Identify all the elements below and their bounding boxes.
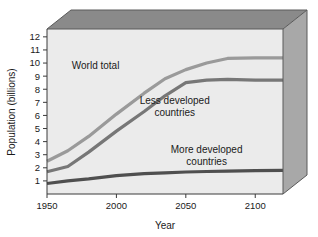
x-axis-title: Year <box>155 220 176 231</box>
y-axis-title: Population (billions) <box>6 68 17 155</box>
y-tick-label-4: 4 <box>35 136 40 147</box>
y-tick-label-9: 9 <box>35 71 40 82</box>
x-axis-ticks: 1950200020502100 <box>36 194 265 211</box>
y-tick-label-11: 11 <box>30 44 40 55</box>
y-tick-label-5: 5 <box>35 123 40 134</box>
y-tick-label-6: 6 <box>35 110 40 121</box>
y-axis-ticks: 123456789101112 <box>29 31 47 186</box>
population-projection-chart: 123456789101112 1950200020502100 Populat… <box>0 0 318 237</box>
x-tick-label-2100: 2100 <box>245 200 266 211</box>
y-tick-label-1: 1 <box>35 175 40 186</box>
y-tick-label-2: 2 <box>35 162 40 173</box>
x-tick-label-2050: 2050 <box>175 200 196 211</box>
y-tick-label-3: 3 <box>35 149 40 160</box>
x-tick-label-2000: 2000 <box>106 200 127 211</box>
chart-canvas: 123456789101112 1950200020502100 Populat… <box>0 0 318 237</box>
chart-box-top-face <box>47 10 307 29</box>
x-tick-label-1950: 1950 <box>36 200 57 211</box>
annotation-world-total: World total <box>72 60 120 71</box>
y-tick-label-8: 8 <box>35 84 40 95</box>
chart-box-right-face <box>283 10 307 194</box>
y-tick-label-7: 7 <box>35 97 40 108</box>
y-tick-label-12: 12 <box>29 31 40 42</box>
y-tick-label-10: 10 <box>29 57 40 68</box>
